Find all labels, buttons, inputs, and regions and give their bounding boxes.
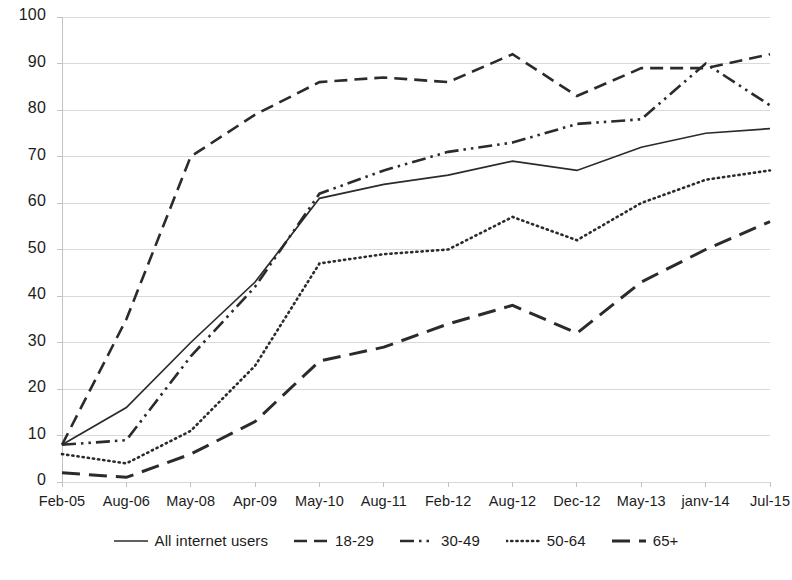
y-axis-label: 60 bbox=[0, 192, 46, 210]
legend-label: All internet users bbox=[155, 532, 269, 549]
x-axis-label: Feb-12 bbox=[425, 493, 472, 509]
legend-item[interactable]: 18-29 bbox=[294, 532, 374, 549]
series-line-3 bbox=[62, 64, 770, 445]
x-axis-label: Feb-05 bbox=[39, 493, 86, 509]
legend-swatch-1 bbox=[114, 535, 148, 547]
x-axis-label: Apr-09 bbox=[233, 493, 277, 509]
y-axis-label: 30 bbox=[0, 332, 46, 350]
legend-swatch-3 bbox=[400, 535, 434, 547]
legend-item[interactable]: 30-49 bbox=[400, 532, 480, 549]
y-axis-label: 0 bbox=[0, 471, 46, 489]
series-line-5 bbox=[62, 222, 770, 478]
y-axis-label: 10 bbox=[0, 425, 46, 443]
legend-item[interactable]: 65+ bbox=[612, 532, 679, 549]
legend-swatch-5 bbox=[612, 535, 646, 547]
y-axis-label: 100 bbox=[0, 6, 46, 24]
y-axis-label: 80 bbox=[0, 99, 46, 117]
y-axis-label: 40 bbox=[0, 285, 46, 303]
x-axis-label: May-10 bbox=[295, 493, 344, 509]
legend-item[interactable]: All internet users bbox=[114, 532, 269, 549]
x-axis-label: May-08 bbox=[166, 493, 215, 509]
x-axis-label: Aug-06 bbox=[103, 493, 150, 509]
legend-label: 30-49 bbox=[441, 532, 480, 549]
series-line-4 bbox=[62, 170, 770, 463]
y-axis-label: 50 bbox=[0, 239, 46, 257]
legend-item[interactable]: 50-64 bbox=[506, 532, 586, 549]
x-axis-label: janv-14 bbox=[681, 493, 729, 509]
series-line-1 bbox=[62, 129, 770, 445]
x-axis-label: Aug-12 bbox=[489, 493, 536, 509]
x-axis-label: Dec-12 bbox=[553, 493, 600, 509]
legend-swatch-2 bbox=[294, 535, 328, 547]
chart-legend: All internet users18-2930-4950-6465+ bbox=[0, 532, 792, 549]
x-axis-label: May-13 bbox=[617, 493, 666, 509]
legend-label: 65+ bbox=[653, 532, 679, 549]
y-axis-label: 70 bbox=[0, 146, 46, 164]
x-axis-label: Jul-15 bbox=[750, 493, 790, 509]
x-axis-label: Aug-11 bbox=[361, 493, 407, 509]
legend-label: 18-29 bbox=[335, 532, 374, 549]
legend-label: 50-64 bbox=[547, 532, 586, 549]
chart-container: 0102030405060708090100 Feb-05Aug-06May-0… bbox=[0, 0, 792, 580]
y-axis-label: 20 bbox=[0, 378, 46, 396]
legend-swatch-4 bbox=[506, 535, 540, 547]
y-axis-label: 90 bbox=[0, 53, 46, 71]
